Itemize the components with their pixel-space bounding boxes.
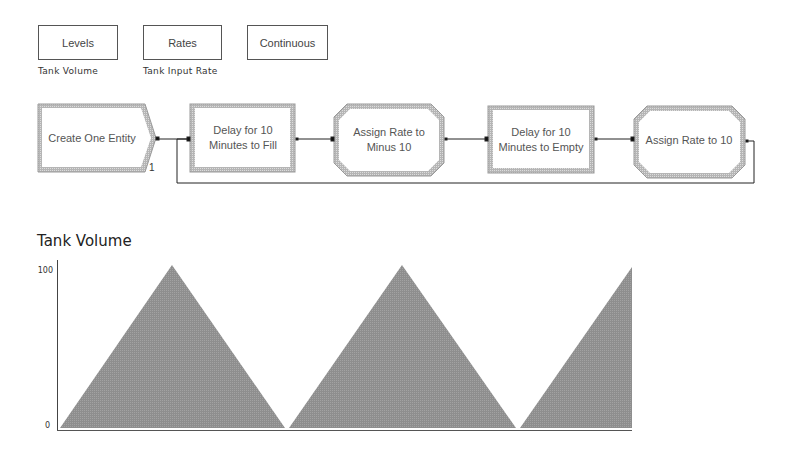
create-module-label: Create One Entity xyxy=(42,108,142,168)
chart-title: Tank Volume xyxy=(37,232,132,250)
area-cycle-2 xyxy=(289,265,516,428)
assign-10-module-label: Assign Rate to 10 xyxy=(643,110,735,170)
delay-empty-module-label: Delay for 10 Minutes to Empty xyxy=(497,110,585,170)
area-cycle-3 xyxy=(520,267,632,428)
tank-volume-chart xyxy=(57,260,632,431)
delay-fill-module-label: Delay for 10 Minutes to Fill xyxy=(198,108,288,168)
assign-minus10-module-label: Assign Rate to Minus 10 xyxy=(343,110,435,170)
y-axis-max-label: 100 xyxy=(33,266,53,275)
connector-delay1-to-assign1[interactable] xyxy=(296,137,334,141)
connector-assign1-to-delay2[interactable] xyxy=(445,137,488,141)
create-counter: 1 xyxy=(149,162,155,173)
area-cycle-1 xyxy=(60,265,285,428)
y-axis-min-label: 0 xyxy=(30,421,50,430)
connector-delay2-to-assign2[interactable] xyxy=(595,137,634,141)
flowchart-canvas xyxy=(0,0,790,453)
